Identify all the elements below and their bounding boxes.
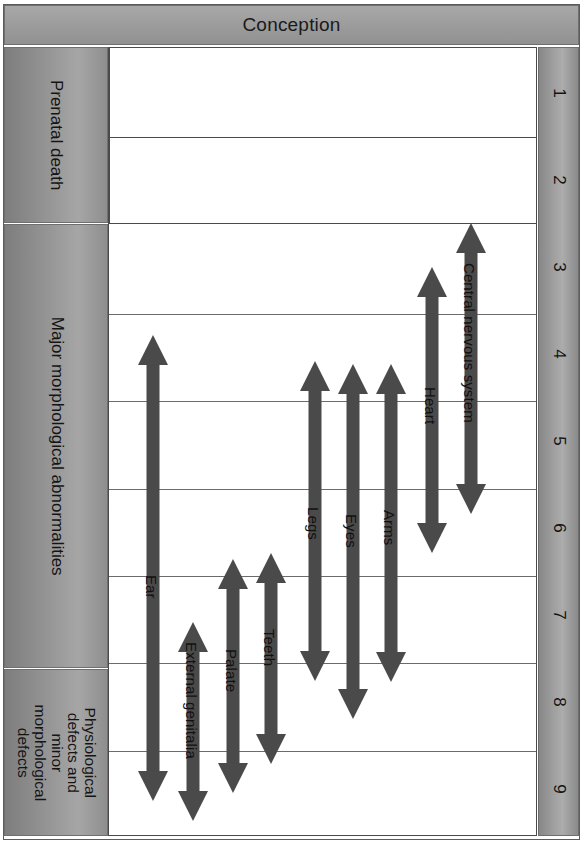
prenatal-block-left-edge (109, 48, 110, 224)
week-tick-4: 4 (539, 344, 578, 364)
arrow-label-teeth: Teeth (261, 629, 278, 666)
gridline-8 (109, 751, 536, 752)
week-tick-6: 6 (539, 518, 578, 538)
week-tick-1: 1 (539, 83, 578, 103)
week-tick-3: 3 (539, 257, 578, 277)
category-label-major-morphological-abnormalities: Major morphological abnormalities (47, 317, 65, 576)
arrow-label-palate: Palate (223, 649, 240, 692)
arrow-label-central-nervous-system: Central nervous system (461, 263, 478, 423)
week-tick-5: 5 (539, 431, 578, 451)
arrow-label-external-genitalia: External genitalia (183, 642, 200, 759)
page-title: Conception (242, 14, 340, 36)
arrow-label-eyes: Eyes (343, 514, 360, 548)
conception-title-band: Conception (4, 5, 579, 45)
week-axis: 123456789 (538, 47, 579, 836)
week-tick-8: 8 (539, 692, 578, 712)
gridline-1 (109, 137, 536, 138)
week-tick-7: 7 (539, 605, 578, 625)
arrow-label-legs: Legs (305, 507, 322, 540)
arrow-label-ear: Ear (143, 575, 160, 599)
category-label-prenatal-death: Prenatal death (47, 80, 65, 191)
category-band-prenatal-death: Prenatal death (4, 47, 108, 223)
plot-area: EarExternal genitaliaPalateTeethLegsEyes… (108, 47, 537, 836)
category-band-major-morphological-abnormalities: Major morphological abnormalities (4, 224, 108, 668)
category-label-physiological-defects: Physiological defects and minor morpholo… (14, 701, 98, 803)
week-tick-2: 2 (539, 170, 578, 190)
chart-page: Conception Prenatal death Major morpholo… (0, 0, 583, 844)
arrow-ear (138, 335, 168, 801)
week-tick-9: 9 (539, 779, 578, 799)
arrow-label-arms: Arms (381, 510, 398, 545)
category-band-physiological-defects: Physiological defects and minor morpholo… (4, 669, 108, 836)
arrow-label-heart: Heart (422, 387, 439, 424)
